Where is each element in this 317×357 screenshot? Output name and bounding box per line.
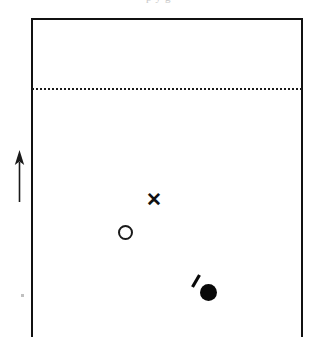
open-circle-marker-icon (118, 225, 133, 240)
figure-canvas: p y g ✕ (0, 0, 317, 357)
up-arrow-icon (12, 150, 28, 202)
clipped-caption-text: p y g (0, 0, 317, 3)
cross-marker-icon: ✕ (146, 190, 162, 209)
plot-frame (31, 18, 303, 337)
scan-speck (21, 294, 24, 297)
diagonal-tick-icon (189, 273, 203, 289)
dotted-reference-line (32, 88, 302, 90)
